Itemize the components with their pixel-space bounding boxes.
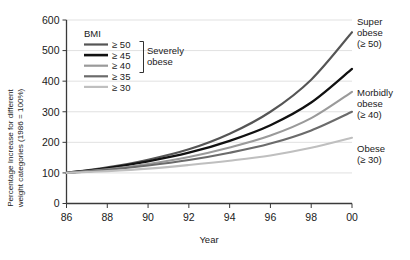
x-tick-label-88: 88 xyxy=(101,211,113,223)
annotation-super-obese-line3: (≥ 50) xyxy=(357,38,382,49)
y-tick-label-200: 200 xyxy=(42,136,60,148)
annotation-super-obese-line1: Super xyxy=(357,16,382,27)
severely-obese-bracket xyxy=(140,42,144,73)
legend-label-40: ≥ 40 xyxy=(112,60,130,71)
legend-heading: BMI xyxy=(84,28,101,39)
x-tick-label-86: 86 xyxy=(61,211,73,223)
annotation-obese-line2: (≥ 30) xyxy=(357,154,382,165)
gridlines xyxy=(67,20,353,173)
x-tick-label-92: 92 xyxy=(183,211,195,223)
legend: BMI ≥ 50≥ 45≥ 40≥ 35≥ 30 Severely obese xyxy=(84,28,184,93)
y-tick-label-500: 500 xyxy=(42,44,60,56)
y-tick-label-300: 300 xyxy=(42,106,60,118)
y-axis-tick-labels: 0100200300400500600 xyxy=(42,14,67,210)
annotation-super-obese-line2: obese xyxy=(357,27,383,38)
legend-label-45: ≥ 45 xyxy=(112,50,130,61)
annotation-super-obese: Super obese (≥ 50) xyxy=(357,16,383,49)
x-tick-label-94: 94 xyxy=(224,211,236,223)
legend-label-50: ≥ 50 xyxy=(112,39,130,50)
chart-container: 0100200300400500600 8688909294969800 Yea… xyxy=(0,0,410,260)
y-tick-label-0: 0 xyxy=(54,197,60,209)
annotation-morbidly-obese-line2: obese xyxy=(357,98,383,109)
x-tick-label-98: 98 xyxy=(305,211,317,223)
bracket-label-line1: Severely xyxy=(147,45,184,56)
legend-label-35: ≥ 35 xyxy=(112,71,130,82)
annotation-morbidly-obese-line3: (≥ 40) xyxy=(357,109,382,120)
annotation-obese: Obese (≥ 30) xyxy=(357,143,385,165)
line-chart: 0100200300400500600 8688909294969800 Yea… xyxy=(0,0,410,260)
annotation-obese-line1: Obese xyxy=(357,143,385,154)
annotation-morbidly-obese: Morbidly obese (≥ 40) xyxy=(357,87,393,120)
x-tick-label-00: 00 xyxy=(346,211,358,223)
x-axis-tick-labels: 8688909294969800 xyxy=(61,204,358,223)
y-tick-label-600: 600 xyxy=(42,14,60,26)
y-axis-title-line1: Percentage Increase for different xyxy=(6,88,15,206)
bracket-label-line2: obese xyxy=(147,56,173,67)
annotation-morbidly-obese-line1: Morbidly xyxy=(357,87,393,98)
y-tick-label-400: 400 xyxy=(42,75,60,87)
x-tick-label-96: 96 xyxy=(265,211,277,223)
legend-items: ≥ 50≥ 45≥ 40≥ 35≥ 30 xyxy=(84,39,130,92)
series-lines xyxy=(67,32,353,173)
x-tick-label-90: 90 xyxy=(142,211,154,223)
legend-label-30: ≥ 30 xyxy=(112,82,130,93)
y-axis-title-line2: weight categories (1986 = 100%) xyxy=(16,88,25,208)
y-tick-label-100: 100 xyxy=(42,167,60,179)
x-axis-title: Year xyxy=(199,234,218,245)
